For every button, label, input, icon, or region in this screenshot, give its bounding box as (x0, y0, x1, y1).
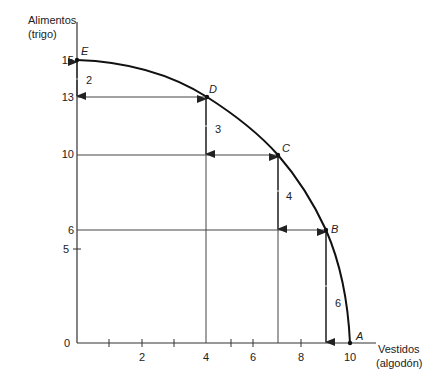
horizontal-guides (77, 97, 326, 230)
y-tick-15: 15 (62, 54, 74, 66)
y-tick-10: 10 (62, 148, 74, 160)
x-tick-10: 10 (344, 351, 356, 363)
delta-arrows (77, 62, 326, 342)
x-axis-title-line2: (algodón) (376, 357, 422, 369)
point-label-A: A (355, 330, 363, 342)
delta-label-2: 2 (86, 74, 92, 86)
point-label-B: B (331, 223, 338, 235)
x-axis-title-line1: Vestidos (378, 343, 420, 355)
delta-label-6: 6 (335, 297, 341, 309)
y-tick-5: 5 (63, 243, 69, 255)
y-tick-6: 6 (68, 224, 74, 236)
y-tick-13: 13 (62, 91, 74, 103)
x-tick-4: 4 (203, 351, 209, 363)
ppf-chart: Alimentos (trigo) Vestidos (algodón) 0 5… (0, 0, 444, 382)
y-axis-title-line2: (trigo) (28, 28, 57, 40)
y-axis-title-line1: Alimentos (28, 14, 77, 26)
x-tick-2: 2 (139, 351, 145, 363)
point-label-D: D (209, 83, 217, 95)
x-tick-6: 6 (250, 351, 256, 363)
x-tick-8: 8 (298, 351, 304, 363)
point-label-E: E (81, 45, 89, 57)
delta-label-3: 3 (215, 123, 221, 135)
vertical-guides (206, 97, 326, 343)
point-label-C: C (282, 142, 290, 154)
y-tick-0: 0 (64, 337, 70, 349)
ppf-curve (77, 60, 350, 343)
delta-label-4: 4 (286, 190, 292, 202)
